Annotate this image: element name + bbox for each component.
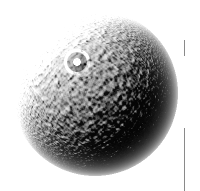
scale-bar-tick-upper xyxy=(184,40,185,56)
sphere-image-canvas xyxy=(0,0,200,191)
scale-bar-tick-lower xyxy=(184,128,185,191)
figure-root: Grayscale image of a textured spherical … xyxy=(0,0,200,191)
